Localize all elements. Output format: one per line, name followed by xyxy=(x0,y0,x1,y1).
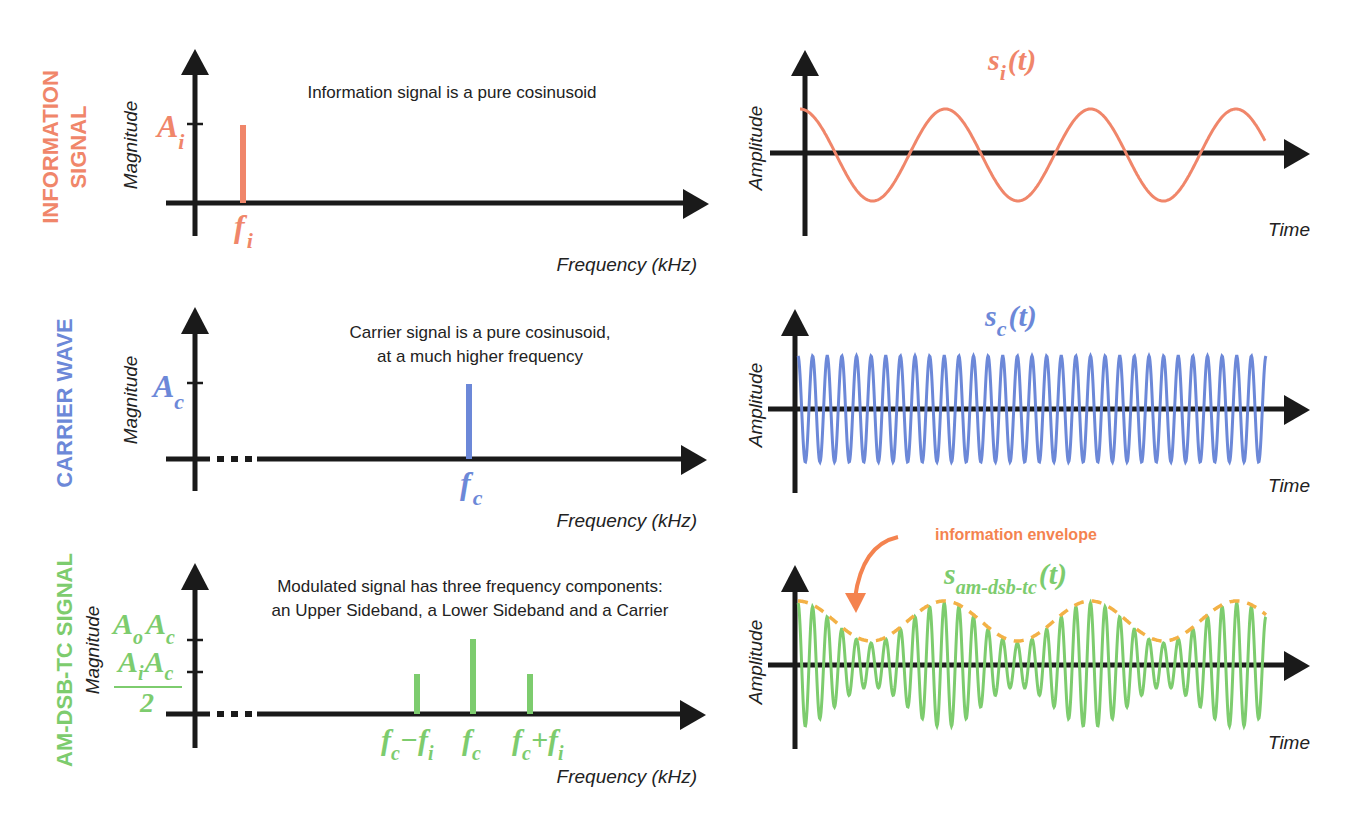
spike-label-usb: fc+fi xyxy=(512,723,564,764)
axis-break-dash xyxy=(231,456,238,462)
spectral-line-lsb xyxy=(414,674,420,714)
y-axis-arrow-icon xyxy=(781,309,809,336)
envelope-arrow-head-icon xyxy=(845,593,866,613)
y-axis-title: Amplitude xyxy=(745,106,766,192)
signal-label-si: si(t) xyxy=(987,43,1036,85)
axis-break-dash xyxy=(217,711,224,717)
spectral-line-fi xyxy=(240,125,246,203)
spectrum-panel-carrier: Ac fc Magnitude Frequency (kHz) Carrier … xyxy=(120,307,707,531)
caption-information: Information signal is a pure cosinusoid xyxy=(307,83,596,102)
caption-carrier-line2: at a much higher frequency xyxy=(377,347,584,366)
x-axis-arrow-icon xyxy=(683,189,709,219)
x-axis-title: Frequency (kHz) xyxy=(557,254,697,275)
x-axis-title: Time xyxy=(1268,475,1310,496)
spike-label-lsb: fc−fi xyxy=(381,723,434,764)
x-axis-arrow-icon xyxy=(1284,651,1310,681)
spike-label-fi: fi xyxy=(234,208,254,253)
time-panel-information: Amplitude Time si(t) xyxy=(745,43,1310,240)
spectrum-panel-information: Ai fi Magnitude Frequency (kHz) Informat… xyxy=(120,49,709,275)
tick-label-ao-ac: AoAc xyxy=(111,607,175,648)
y-axis-title: Magnitude xyxy=(120,356,141,445)
caption-carrier-line1: Carrier signal is a pure cosinusoid, xyxy=(350,323,611,342)
tick-label-ai-ac: AiAc xyxy=(116,645,174,684)
axis-break-dash xyxy=(245,456,252,462)
signal-label-sc: sc(t) xyxy=(984,299,1037,341)
time-panel-am: information envelope Amplitude Time sam-… xyxy=(745,526,1310,753)
axis-break-dash xyxy=(217,456,224,462)
axis-break-dash xyxy=(245,711,252,717)
spike-label-carrier: fc xyxy=(462,723,481,764)
caption-am-line1: Modulated signal has three frequency com… xyxy=(277,577,663,596)
time-panel-carrier: Amplitude Time sc(t) xyxy=(745,299,1310,496)
row-label-information: INFORMATION SIGNAL xyxy=(38,70,91,224)
row-label-information-line1: INFORMATION xyxy=(38,70,63,224)
axis-break-dash xyxy=(231,711,238,717)
x-axis-arrow-icon xyxy=(1284,139,1310,169)
y-axis-title: Amplitude xyxy=(745,363,766,449)
spike-label-fc: fc xyxy=(460,465,483,510)
spectral-line-carrier xyxy=(470,639,476,714)
spectral-line-fc xyxy=(466,384,472,459)
row-label-am-text: AM-DSB-TC SIGNAL xyxy=(52,553,77,767)
envelope-annotation: information envelope xyxy=(935,526,1097,543)
y-axis-arrow-icon xyxy=(791,50,819,76)
row-label-carrier: CARRIER WAVE xyxy=(52,318,77,488)
y-axis-title: Magnitude xyxy=(82,606,103,695)
spectrum-panel-am: AoAc AiAc 2 fc−fi fc fc+fi Magnitude Fre… xyxy=(82,563,706,787)
y-axis-arrow-icon xyxy=(181,307,209,334)
y-axis-arrow-icon xyxy=(181,49,209,75)
row-label-am: AM-DSB-TC SIGNAL xyxy=(52,553,77,767)
x-axis-arrow-icon xyxy=(680,700,706,730)
y-axis-title: Magnitude xyxy=(120,101,141,190)
spectral-line-usb xyxy=(527,674,533,714)
x-axis-arrow-icon xyxy=(1284,395,1310,425)
caption-am-line2: an Upper Sideband, a Lower Sideband and … xyxy=(272,601,669,620)
row-label-carrier-text: CARRIER WAVE xyxy=(52,318,77,488)
tick-label-ac: Ac xyxy=(151,368,184,414)
x-axis-title: Time xyxy=(1268,219,1310,240)
signal-label-sam: sam-dsb-tc(t) xyxy=(943,557,1067,598)
x-axis-title: Frequency (kHz) xyxy=(557,510,697,531)
tick-label-ai: Ai xyxy=(155,108,185,154)
envelope-pointer-arrow xyxy=(855,537,898,598)
am-modulation-diagram: INFORMATION SIGNAL CARRIER WAVE AM-DSB-T… xyxy=(0,0,1349,819)
x-axis-title: Time xyxy=(1268,732,1310,753)
tick-label-denominator: 2 xyxy=(139,687,154,718)
y-axis-title: Amplitude xyxy=(745,620,766,706)
x-axis-arrow-icon xyxy=(681,445,707,475)
y-axis-arrow-icon xyxy=(781,565,809,592)
x-axis-title: Frequency (kHz) xyxy=(557,766,697,787)
y-axis-arrow-icon xyxy=(181,563,209,590)
row-label-information-line2: SIGNAL xyxy=(66,105,91,188)
